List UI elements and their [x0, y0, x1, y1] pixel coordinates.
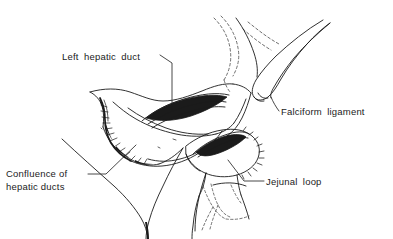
lower-jejunum-body — [192, 173, 249, 239]
leader-falciform — [271, 97, 279, 111]
label-falciform-ligament: Falciform ligament — [281, 106, 365, 119]
falciform-ligament-band — [236, 18, 330, 101]
jejunal-loop-opening — [193, 132, 249, 157]
label-jejunal-loop: Jejunal loop — [266, 176, 322, 189]
left-hepatic-duct-opening — [142, 94, 229, 128]
liver-hidden-outline-dashed — [214, 16, 279, 93]
label-confluence-line1: Confluence of — [6, 168, 67, 179]
anatomical-figure: Left hepatic duct Falciform ligament Con… — [0, 0, 393, 239]
leader-jejunal — [228, 160, 264, 181]
leader-left-hepatic-duct — [160, 55, 172, 110]
label-confluence-of-hepatic-ducts: Confluence ofhepatic ducts — [6, 168, 67, 193]
label-left-hepatic-duct: Left hepatic duct — [62, 51, 140, 64]
anatomy-illustration — [0, 0, 393, 239]
label-confluence-line2: hepatic ducts — [6, 181, 65, 192]
mesenteric-vessels-dashed — [202, 184, 249, 230]
liver-cut-surface — [90, 84, 251, 165]
